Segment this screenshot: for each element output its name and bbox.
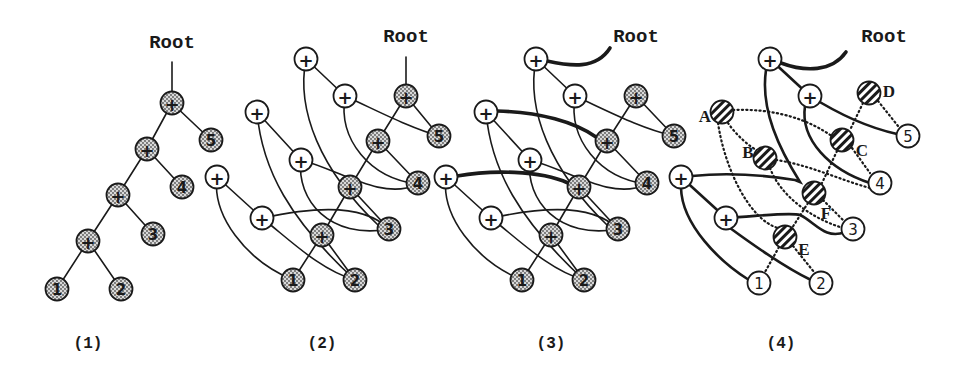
leaf-value: 4 bbox=[177, 179, 187, 197]
hatched-circle-icon bbox=[858, 82, 881, 105]
edge-dotted bbox=[733, 110, 833, 137]
plus-icon: + bbox=[164, 94, 179, 115]
hatched-circle-icon bbox=[711, 101, 734, 124]
node-hatched-E: E bbox=[774, 226, 810, 259]
node-shaded-n4: 4 bbox=[636, 172, 659, 195]
hatched-circle-icon bbox=[774, 226, 797, 249]
node-label: C bbox=[856, 141, 868, 160]
plus-icon: + bbox=[398, 87, 413, 108]
node-hatched-A: A bbox=[699, 101, 734, 126]
node-plus-a6: + bbox=[480, 207, 503, 230]
edges bbox=[445, 48, 674, 280]
node-plus-a1: + bbox=[295, 48, 318, 71]
node-shaded-n1: 1 bbox=[282, 269, 305, 292]
edge-thin bbox=[345, 96, 439, 136]
node-shaded-n5: 5 bbox=[200, 129, 223, 152]
node-shaded-s2: + bbox=[596, 130, 619, 153]
leaf-value: 5 bbox=[206, 132, 216, 150]
node-label: B bbox=[742, 143, 753, 162]
plus-icon: + bbox=[543, 226, 558, 247]
leaf-value: 4 bbox=[875, 175, 885, 193]
plus-icon: + bbox=[673, 168, 688, 189]
node-shaded-s1: + bbox=[395, 85, 418, 108]
node-plus-a5: + bbox=[206, 166, 229, 189]
panel-1: Root++++54312(1) bbox=[46, 32, 223, 353]
node-label: F bbox=[821, 204, 831, 223]
node-shaded-p4: + bbox=[77, 230, 100, 253]
leaf-value: 3 bbox=[384, 221, 394, 239]
leaf-value: 5 bbox=[434, 128, 444, 146]
node-leaf-n4: 4 bbox=[869, 172, 892, 195]
node-shaded-n2: 2 bbox=[573, 269, 596, 292]
plus-icon: + bbox=[337, 87, 352, 108]
edge-dotted bbox=[850, 103, 863, 130]
node-leaf-n2: 2 bbox=[810, 272, 833, 295]
edge-thin bbox=[486, 112, 584, 280]
plus-icon: + bbox=[370, 132, 385, 153]
plus-icon: + bbox=[628, 87, 643, 108]
node-leaf-n5: 5 bbox=[897, 125, 920, 148]
hatched-circle-icon bbox=[754, 147, 777, 170]
node-shaded-s4: + bbox=[311, 224, 334, 247]
leaf-value: 4 bbox=[642, 175, 652, 193]
plus-icon: + bbox=[762, 50, 777, 71]
root-label: Root bbox=[149, 32, 195, 54]
plus-icon: + bbox=[438, 168, 453, 189]
plus-icon: + bbox=[80, 232, 95, 253]
node-plus-a2: + bbox=[564, 85, 587, 108]
node-shaded-s2: + bbox=[367, 130, 390, 153]
node-shaded-p2: + bbox=[136, 138, 159, 161]
leaf-value: 3 bbox=[848, 221, 858, 239]
panel-4: Root++++ABCDEF54312(4) bbox=[670, 26, 920, 353]
node-shaded-n5: 5 bbox=[663, 125, 686, 148]
node-plus-a2: + bbox=[334, 85, 357, 108]
edge-thin bbox=[257, 112, 355, 280]
node-shaded-n5: 5 bbox=[428, 125, 451, 148]
plus-icon: + bbox=[342, 178, 357, 199]
plus-icon: + bbox=[209, 168, 224, 189]
root-label: Root bbox=[613, 26, 659, 48]
node-plus-a1: + bbox=[525, 48, 548, 71]
node-label: D bbox=[883, 82, 895, 101]
leaf-value: 5 bbox=[903, 128, 913, 146]
node-leaf-n1: 1 bbox=[748, 272, 771, 295]
node-shaded-n2: 2 bbox=[344, 269, 367, 292]
node-plus-a2: + bbox=[799, 85, 822, 108]
plus-icon: + bbox=[599, 132, 614, 153]
hatched-circle-icon bbox=[803, 182, 826, 205]
hatched-circle-icon bbox=[831, 129, 854, 152]
plus-icon: + bbox=[314, 226, 329, 247]
root-label: Root bbox=[861, 26, 907, 48]
node-leaf-n3: 3 bbox=[842, 218, 865, 241]
node-plus-a5: + bbox=[435, 166, 458, 189]
node-shaded-n4: 4 bbox=[171, 176, 194, 199]
leaf-value: 1 bbox=[517, 272, 527, 290]
node-shaded-n1: 1 bbox=[511, 269, 534, 292]
plus-icon: + bbox=[522, 151, 537, 172]
node-shaded-n3: 3 bbox=[142, 223, 165, 246]
edge-thin bbox=[575, 96, 674, 136]
node-plus-a3: + bbox=[475, 101, 498, 124]
node-shaded-n4: 4 bbox=[407, 172, 430, 195]
edge-thick bbox=[547, 48, 610, 65]
node-shaded-s1: + bbox=[625, 85, 648, 108]
plus-icon: + bbox=[293, 151, 308, 172]
edge-thin-bold bbox=[692, 70, 800, 182]
plus-icon: + bbox=[802, 87, 817, 108]
leaf-value: 5 bbox=[669, 128, 679, 146]
plus-icon: + bbox=[110, 186, 125, 207]
node-shaded-n1: 1 bbox=[46, 278, 69, 301]
leaf-value: 1 bbox=[754, 275, 764, 293]
plus-icon: + bbox=[478, 103, 493, 124]
node-plus-a5: + bbox=[670, 166, 693, 189]
plus-icon: + bbox=[528, 50, 543, 71]
node-shaded-p3: + bbox=[107, 184, 130, 207]
node-hatched-D: D bbox=[858, 82, 896, 105]
plus-icon: + bbox=[298, 50, 313, 71]
edge-thick bbox=[497, 111, 596, 137]
plus-icon: + bbox=[139, 140, 154, 161]
plus-icon: + bbox=[254, 209, 269, 230]
leaf-value: 1 bbox=[288, 272, 298, 290]
leaf-value: 4 bbox=[413, 175, 423, 193]
panel-label: (1) bbox=[74, 335, 103, 353]
